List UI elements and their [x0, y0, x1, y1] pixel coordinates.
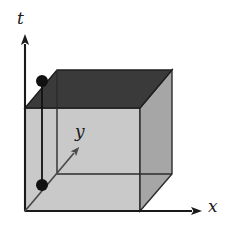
axis-label-y: y: [75, 123, 85, 140]
figure-container: t x y: [0, 0, 236, 231]
axis-label-x: x: [208, 198, 218, 215]
lower-event-point: [36, 179, 48, 191]
upper-event-point: [36, 75, 48, 87]
cube-diagram-canvas: [0, 0, 236, 231]
axis-label-t: t: [17, 10, 24, 27]
